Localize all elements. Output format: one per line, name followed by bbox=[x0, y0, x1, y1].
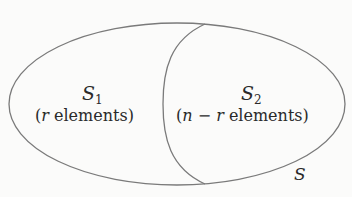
s1-symbol: S1 bbox=[82, 82, 103, 107]
s1-description: (r elements) bbox=[35, 106, 134, 125]
region-s2-label: S2 (n − r elements) bbox=[176, 82, 309, 125]
s2-description: (n − r elements) bbox=[176, 106, 309, 125]
partition-divider-curve bbox=[163, 24, 205, 184]
region-s1-label: S1 (r elements) bbox=[35, 82, 134, 125]
partition-diagram: S1 (r elements) S2 (n − r elements) S bbox=[0, 0, 352, 197]
outer-set-label: S bbox=[294, 164, 306, 184]
s2-symbol: S2 bbox=[241, 82, 262, 107]
